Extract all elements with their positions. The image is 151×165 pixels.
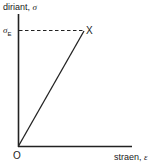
- y-axis-label-text: diriant,: [3, 2, 30, 12]
- point-x-label: X: [86, 26, 93, 36]
- x-axis-label: straen, ε: [114, 153, 148, 162]
- sigma-e-label: σE: [3, 26, 11, 37]
- epsilon-symbol: ε: [144, 152, 148, 162]
- sigma-symbol: σ: [33, 2, 37, 12]
- subscript: E: [7, 31, 11, 37]
- stress-strain-graph: [0, 0, 151, 165]
- origin-label: O: [13, 151, 21, 161]
- y-axis-label: diriant, σ: [3, 3, 37, 12]
- stress-strain-line: [19, 31, 85, 146]
- x-axis-label-text: straen,: [114, 152, 142, 162]
